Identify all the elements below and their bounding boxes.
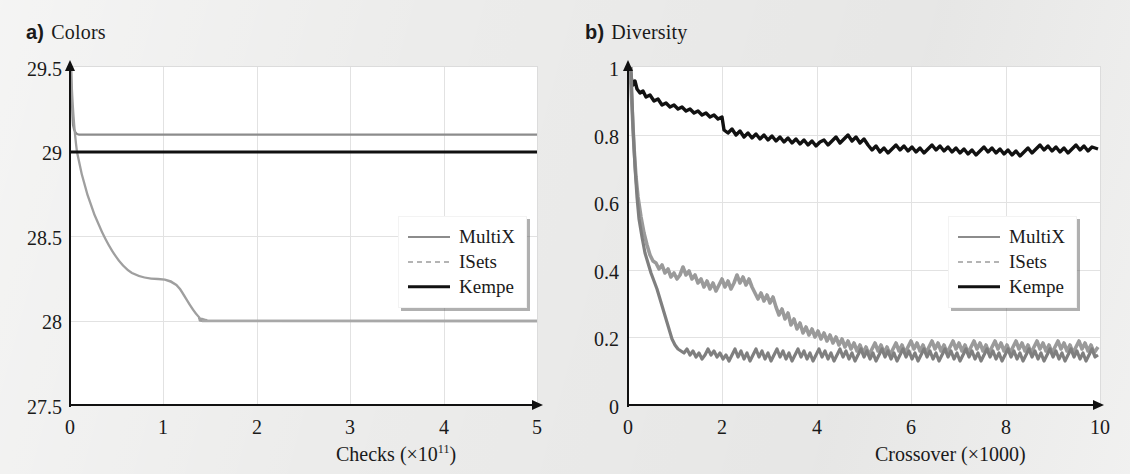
panel-a-marker: a) [26, 21, 44, 43]
panel-b-title: b)Diversity [585, 20, 688, 45]
panel-b-title-text: Diversity [604, 21, 687, 43]
legend-label-kempe-a: Kempe [459, 277, 514, 296]
legend-item-multix-b[interactable]: MultiX [958, 224, 1065, 249]
legend-item-kempe-a[interactable]: Kempe [408, 274, 515, 299]
x-axis-label-a-exponent: 11 [438, 442, 450, 456]
legend-label-kempe-b: Kempe [1009, 277, 1064, 296]
legend-item-isets-a[interactable]: ISets [408, 249, 515, 274]
legend-label-multix-a: MultiX [459, 227, 515, 246]
legend-swatch-kempe-icon [958, 281, 1000, 293]
legend-swatch-isets-icon [958, 256, 1000, 268]
series-line-isets-b [630, 67, 1098, 355]
x-axis-arrow-a [532, 400, 543, 410]
x-tick-b-5: 10 [1077, 417, 1123, 437]
x-axis-a [69, 404, 533, 406]
legend-item-multix-a[interactable]: MultiX [408, 224, 515, 249]
x-tick-b-0: 0 [608, 417, 648, 437]
y-axis-arrow-b [623, 60, 633, 71]
y-tick-b-2: 0.6 [565, 194, 619, 214]
panel-colors: a)Colors [0, 0, 565, 474]
legend-swatch-multix-icon [408, 231, 450, 243]
x-tick-a-0: 0 [50, 417, 90, 437]
y-axis-arrow-a [65, 60, 75, 71]
x-tick-a-5: 5 [517, 417, 557, 437]
x-axis-label-b: Crossover (×1000) [875, 443, 1026, 464]
series-line-kempe-b [630, 67, 1098, 156]
legend-item-isets-b[interactable]: ISets [958, 249, 1065, 274]
y-axis-b [627, 71, 629, 407]
x-axis-arrow-b [1093, 400, 1104, 410]
y-tick-a-3: 28 [0, 312, 62, 332]
x-axis-b [627, 404, 1094, 406]
y-tick-b-5: 0 [565, 397, 619, 417]
x-tick-b-3: 6 [891, 417, 931, 437]
y-tick-a-4: 27.5 [0, 397, 62, 417]
legend-a[interactable]: MultiX ISets Kempe [398, 216, 527, 308]
x-axis-label-a-text: Checks (×10 [336, 443, 438, 465]
x-axis-label-a: Checks (×1011) [336, 443, 456, 464]
panel-b-marker: b) [585, 21, 604, 43]
legend-swatch-isets-icon [408, 256, 450, 268]
legend-label-multix-b: MultiX [1009, 227, 1065, 246]
x-tick-a-3: 3 [330, 417, 370, 437]
panel-diversity: b)Diversity 1 [565, 0, 1130, 474]
legend-item-kempe-b[interactable]: Kempe [958, 274, 1065, 299]
y-tick-b-3: 0.4 [565, 262, 619, 282]
series-line-multix-a [71, 67, 537, 135]
y-tick-b-4: 0.2 [565, 329, 619, 349]
x-axis-label-b-text: Crossover (×1000) [875, 443, 1026, 465]
x-tick-b-2: 4 [797, 417, 837, 437]
x-tick-a-1: 1 [143, 417, 183, 437]
figure-page: a)Colors [0, 0, 1130, 474]
y-axis-a [69, 71, 71, 407]
legend-swatch-multix-icon [958, 231, 1000, 243]
legend-b[interactable]: MultiX ISets Kempe [948, 216, 1077, 308]
x-tick-a-2: 2 [237, 417, 277, 437]
x-tick-b-1: 2 [702, 417, 742, 437]
y-tick-a-0: 29.5 [0, 59, 62, 79]
legend-label-isets-b: ISets [1009, 252, 1047, 271]
y-tick-a-1: 29 [0, 143, 62, 163]
y-tick-b-1: 0.8 [565, 127, 619, 147]
y-tick-b-0: 1 [565, 59, 619, 79]
legend-swatch-kempe-icon [408, 281, 450, 293]
panel-a-title: a)Colors [26, 20, 106, 45]
x-tick-b-4: 8 [986, 417, 1026, 437]
x-axis-label-a-tail: ) [449, 443, 456, 465]
y-tick-a-2: 28.5 [0, 228, 62, 248]
panel-a-title-text: Colors [44, 21, 106, 43]
x-tick-a-4: 4 [424, 417, 464, 437]
legend-label-isets-a: ISets [459, 252, 497, 271]
series-line-multix-b [631, 67, 1098, 361]
